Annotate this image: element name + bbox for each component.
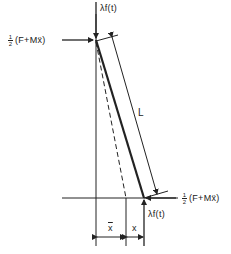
x-label: x <box>132 223 137 233</box>
dashed-line <box>96 42 126 198</box>
fraction-half: 1 2 <box>182 192 187 205</box>
diagram-canvas: λf(t) 1 2 (F+Mẍ) L 1 2 (F+Mẍ) λf(t) x x <box>0 0 231 254</box>
x-bar-label: x <box>108 223 113 233</box>
bottom-horizontal-force-label: 1 2 (F+Mẍ) <box>182 192 220 205</box>
top-vertical-force-label: λf(t) <box>100 3 117 13</box>
bottom-vertical-force-label: λf(t) <box>148 209 165 219</box>
top-end-tick <box>96 35 118 41</box>
top-horizontal-force-label: 1 2 (F+Mẍ) <box>8 34 46 47</box>
length-label: L <box>138 107 144 118</box>
fraction-half: 1 2 <box>8 34 13 47</box>
